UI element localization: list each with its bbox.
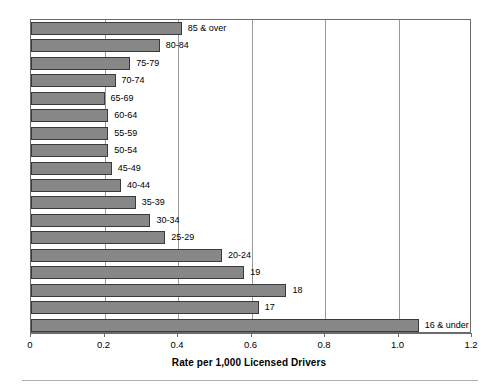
bar [31, 284, 286, 297]
bar-row: 50-54 [31, 142, 470, 159]
bar-row: 19 [31, 264, 470, 281]
bar [31, 57, 130, 70]
bar-row: 60-64 [31, 107, 470, 124]
bar-row: 25-29 [31, 229, 470, 246]
bar [31, 179, 121, 192]
tick-label-0.2: 0.2 [97, 339, 110, 351]
bar-row: 70-74 [31, 72, 470, 89]
tick-mark-0.8 [324, 333, 325, 337]
bar [31, 92, 105, 105]
tick-mark-0 [30, 333, 31, 337]
bar-category-label: 55-59 [114, 126, 137, 140]
bar [31, 109, 108, 122]
bar [31, 39, 160, 52]
bar [31, 214, 150, 227]
bar [31, 144, 108, 157]
tick-mark-1.0 [398, 333, 399, 337]
bar-category-label: 18 [292, 283, 302, 297]
bar [31, 231, 165, 244]
bar-category-label: 40-44 [127, 178, 150, 192]
bar [31, 162, 112, 175]
bar-category-label: 19 [250, 265, 260, 279]
bar-row: 16 & under [31, 317, 470, 334]
bar-category-label: 50-54 [114, 143, 137, 157]
bar-category-label: 35-39 [142, 195, 165, 209]
bar-category-label: 30-34 [156, 213, 179, 227]
bar [31, 22, 182, 35]
bar-row: 30-34 [31, 212, 470, 229]
tick-label-1.2: 1.2 [464, 339, 477, 351]
bar-category-label: 75-79 [136, 56, 159, 70]
tick-label-1.0: 1.0 [391, 339, 404, 351]
bar-category-label: 60-64 [114, 108, 137, 122]
bar-category-label: 80-84 [166, 38, 189, 52]
plot-area: 85 & over80-8475-7970-7465-6960-6455-595… [30, 19, 471, 333]
bar-category-label: 25-29 [171, 230, 194, 244]
bar-row: 65-69 [31, 90, 470, 107]
tick-mark-0.4 [177, 333, 178, 337]
tick-label-0.8: 0.8 [317, 339, 330, 351]
bar [31, 266, 244, 279]
bar-category-label: 70-74 [122, 73, 145, 87]
bar-row: 55-59 [31, 125, 470, 142]
bar [31, 74, 116, 87]
bottom-divider [22, 380, 478, 381]
bar [31, 319, 419, 332]
bar-row: 45-49 [31, 160, 470, 177]
bar [31, 127, 108, 140]
bar-category-label: 17 [265, 300, 275, 314]
bar [31, 249, 222, 262]
tick-label-0.6: 0.6 [244, 339, 257, 351]
bar-row: 35-39 [31, 194, 470, 211]
bar-category-label: 65-69 [111, 91, 134, 105]
bar-series: 85 & over80-8475-7970-7465-6960-6455-595… [31, 20, 470, 332]
bar-category-label: 16 & under [425, 318, 469, 332]
bar-row: 18 [31, 282, 470, 299]
bar [31, 196, 136, 209]
chart-figure: 85 & over80-8475-7970-7465-6960-6455-595… [0, 0, 498, 387]
tick-label-0: 0 [27, 339, 32, 351]
bar-row: 75-79 [31, 55, 470, 72]
tick-mark-0.2 [104, 333, 105, 337]
bar-row: 85 & over [31, 20, 470, 37]
bar-row: 40-44 [31, 177, 470, 194]
bar-category-label: 45-49 [118, 161, 141, 175]
tick-mark-0.6 [251, 333, 252, 337]
x-axis-title: Rate per 1,000 Licensed Drivers [0, 357, 498, 368]
bar-row: 17 [31, 299, 470, 316]
bar-row: 20-24 [31, 247, 470, 264]
bar-row: 80-84 [31, 37, 470, 54]
bar-category-label: 85 & over [188, 21, 227, 35]
tick-label-0.4: 0.4 [170, 339, 183, 351]
tick-mark-1.2 [471, 333, 472, 337]
bar-category-label: 20-24 [228, 248, 251, 262]
bar [31, 301, 259, 314]
